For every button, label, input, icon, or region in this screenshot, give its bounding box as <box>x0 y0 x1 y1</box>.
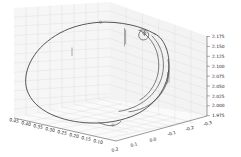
z-tick-label: 2.150 <box>212 44 225 49</box>
y-tick-label: -0.3 <box>203 120 213 127</box>
x-tick-label: 0.35 <box>33 123 44 130</box>
x-tick-label: 0.20 <box>69 132 80 139</box>
plot-3d-axes: 0.45 0.40 0.35 0.30 0.25 0.20 0.15 0.10 … <box>0 0 241 157</box>
y-tick-label: -0.1 <box>167 130 177 137</box>
z-tick-label: 2.125 <box>212 54 225 59</box>
x-tick-label: 0.15 <box>81 135 92 142</box>
x-tick-label: 0.10 <box>93 138 104 145</box>
z-tick-label: 2.025 <box>212 94 225 99</box>
y-tick-label: -0.2 <box>185 125 195 132</box>
y-tick-label: 0.0 <box>149 136 157 143</box>
z-tick-label: 1.975 <box>212 113 225 118</box>
axes-panes <box>14 2 207 141</box>
z-tick-label: 2.075 <box>212 74 225 79</box>
y-tick-label: 0.1 <box>130 141 138 148</box>
figure-canvas: 0.45 0.40 0.35 0.30 0.25 0.20 0.15 0.10 … <box>0 0 241 157</box>
x-tick-label: 0.40 <box>21 120 32 127</box>
z-tick-label: 2.050 <box>212 84 225 89</box>
x-tick-label: 0.30 <box>45 126 56 133</box>
z-tick-label: 2.175 <box>212 34 225 39</box>
z-tick-label: 2.100 <box>212 64 225 69</box>
x-tick-label: 0.45 <box>9 117 20 124</box>
z-tick-label: 2.000 <box>212 103 225 108</box>
z-tick-labels: 2.175 2.150 2.125 2.100 2.075 2.050 2.02… <box>212 34 225 118</box>
axis-ticks <box>207 37 210 116</box>
y-tick-label: 0.2 <box>111 146 119 153</box>
x-tick-label: 0.25 <box>57 129 68 136</box>
